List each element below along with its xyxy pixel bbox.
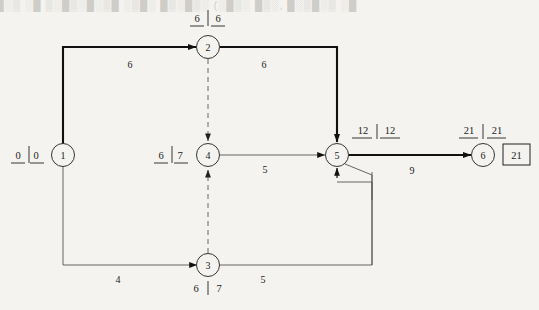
- edge-4-to-5: 5: [220, 155, 325, 175]
- network-diagram-canvas: 6 6 4 5 5 9 1 2: [0, 0, 539, 310]
- edge-1-to-3: 4: [63, 164, 197, 285]
- node-5-late: 12: [385, 125, 396, 136]
- node-4-late: 7: [177, 150, 182, 161]
- node-5-label: 5: [335, 150, 340, 161]
- node-1-time-label: 0 0: [11, 146, 44, 163]
- node-4-time-label: 6 7: [154, 146, 188, 163]
- node-3-late: 7: [216, 283, 221, 294]
- edge-1-to-2: 6: [63, 47, 196, 147]
- node-2-time-label: 6 6: [190, 10, 225, 26]
- node-6-late: 21: [492, 125, 503, 136]
- node-6-early: 21: [464, 125, 475, 136]
- node-2-label: 2: [206, 42, 211, 53]
- node-3-early: 6: [193, 283, 198, 294]
- node-1-label: 1: [61, 150, 66, 161]
- node-1[interactable]: 1: [52, 144, 75, 167]
- node-1-early: 0: [15, 150, 20, 161]
- node-4-label: 4: [206, 150, 211, 161]
- edge-weight-5-6: 9: [410, 165, 415, 176]
- node-6[interactable]: 6: [472, 144, 495, 167]
- edge-weight-4-5: 5: [263, 164, 268, 175]
- node-1-late: 0: [33, 150, 38, 161]
- edge-weight-2-5: 6: [262, 59, 267, 70]
- node-5-time-label: 12 12: [352, 124, 400, 139]
- edge-3-to-5: 5: [220, 164, 372, 285]
- project-duration-value: 21: [511, 150, 522, 161]
- node-6-time-label: 21 21: [459, 124, 506, 139]
- edge-weight-1-3: 4: [116, 274, 121, 285]
- node-4[interactable]: 4: [197, 144, 220, 167]
- node-3-time-label: 6 7: [193, 281, 221, 295]
- node-5-early: 12: [358, 125, 369, 136]
- node-3-label: 3: [206, 260, 211, 271]
- project-duration-box: 21: [503, 144, 530, 165]
- node-5[interactable]: 5: [326, 144, 349, 167]
- edge-weight-1-2: 6: [128, 59, 133, 70]
- node-2-early: 6: [194, 13, 199, 24]
- node-6-label: 6: [481, 150, 486, 161]
- node-2-late: 6: [215, 13, 220, 24]
- node-3[interactable]: 3: [197, 254, 220, 277]
- edge-weight-3-5: 5: [261, 274, 266, 285]
- edge-2-to-5: 6: [220, 47, 337, 142]
- node-2[interactable]: 2: [197, 36, 220, 59]
- node-4-early: 6: [158, 150, 163, 161]
